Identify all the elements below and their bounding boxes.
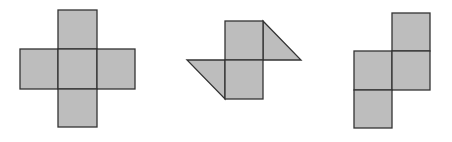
square [392, 13, 430, 51]
square [354, 90, 392, 128]
figure-canvas [0, 0, 452, 142]
square [58, 89, 97, 127]
square [225, 21, 263, 60]
square [225, 60, 263, 99]
triangle [263, 21, 301, 60]
square [20, 49, 58, 89]
stair-net-shape [354, 13, 430, 128]
square [97, 49, 135, 89]
square [354, 51, 392, 90]
triangle-net-shape [187, 21, 301, 99]
square [392, 51, 430, 90]
cross-net-shape [20, 10, 135, 127]
square [58, 10, 97, 49]
square [58, 49, 97, 89]
triangle [187, 60, 225, 99]
